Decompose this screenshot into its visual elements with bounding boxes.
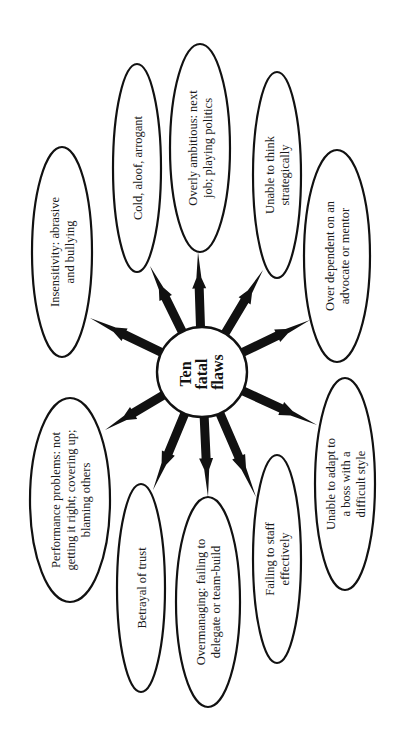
arrow-to-failing-to-staff xyxy=(213,406,256,497)
node-label: Failing to staffeffectively xyxy=(263,521,292,595)
node-label-line: Cold, aloof, arrogant xyxy=(131,115,145,220)
node-cold: Cold, aloof, arrogant xyxy=(113,64,161,272)
node-label-line: job; playing politics xyxy=(201,98,215,199)
node-label-line: Betrayal of trust xyxy=(135,547,149,629)
node-insensitivity: Insensitivity: abrasiveand bullying xyxy=(32,147,92,357)
node-ellipse xyxy=(176,497,240,707)
node-ellipse xyxy=(32,147,92,357)
node-label: Over dependent on anadvocate or mentor xyxy=(323,200,352,311)
node-label: Overly ambitious: nextjob; playing polit… xyxy=(186,90,215,206)
node-label-line: blaming others xyxy=(79,463,93,538)
node-label-line: Failing to staff xyxy=(263,521,277,595)
center-label: Ten fatal flaws xyxy=(177,354,226,390)
arrow-to-over-dependent xyxy=(235,320,310,359)
node-over-dependent: Over dependent on anadvocate or mentor xyxy=(304,150,370,362)
node-label: Unable to adapt toa boss with adifficult… xyxy=(324,438,368,530)
center-label-line-3: flaws xyxy=(209,354,226,390)
node-label-line: Performance problems: not xyxy=(49,431,63,568)
node-label-line: advocate or mentor xyxy=(338,207,352,304)
node-label-line: a boss with a xyxy=(339,451,353,516)
node-overmanaging: Overmanaging: failing todelegate or team… xyxy=(176,497,240,707)
arrow-to-unable-to-think xyxy=(218,270,263,341)
fatal-flaws-diagram: Insensitivity: abrasiveand bullyingCold,… xyxy=(0,0,403,755)
arrow-to-unable-to-adapt xyxy=(236,384,318,425)
node-label-line: Overmanaging: failing to xyxy=(194,539,208,665)
arrow-to-cold xyxy=(150,266,189,339)
node-label-line: effectively xyxy=(278,532,292,586)
node-label: Cold, aloof, arrogant xyxy=(131,115,145,220)
center-label-line-2: fatal xyxy=(193,358,210,390)
node-ellipse xyxy=(253,455,301,663)
node-betrayal-of-trust: Betrayal of trust xyxy=(117,484,165,692)
node-label-line: difficult style xyxy=(354,450,368,517)
arrow-to-overly-ambitious xyxy=(192,252,206,333)
node-label-line: Unable to think xyxy=(263,135,277,214)
arrow-to-overmanaging xyxy=(199,411,213,497)
center-hub: Ten fatal flaws xyxy=(157,327,247,417)
node-label: Unable to thinkstrategically xyxy=(263,135,292,214)
node-label: Betrayal of trust xyxy=(135,547,149,629)
node-performance-problems: Performance problems: notgetting it righ… xyxy=(30,398,110,602)
arrow-to-performance-problems xyxy=(105,388,171,430)
node-label-line: Insensitivity: abrasive xyxy=(48,197,62,307)
node-overly-ambitious: Overly ambitious: nextjob; playing polit… xyxy=(170,44,230,252)
arrow-to-betrayal-of-trust xyxy=(153,406,191,490)
node-unable-to-adapt: Unable to adapt toa boss with adifficult… xyxy=(315,378,375,590)
node-label: Overmanaging: failing todelegate or team… xyxy=(194,539,223,665)
node-label-line: Unable to adapt to xyxy=(324,438,338,530)
node-label-line: Over dependent on an xyxy=(323,200,337,311)
arrow-to-insensitivity xyxy=(90,318,169,359)
node-ellipse xyxy=(253,72,301,278)
node-label-line: delegate or team-build xyxy=(209,545,223,658)
node-ellipse xyxy=(304,150,370,362)
node-label-line: and bullying xyxy=(63,220,77,284)
node-failing-to-staff: Failing to staffeffectively xyxy=(253,455,301,663)
node-label-line: getting it right; covering up; xyxy=(64,430,78,571)
node-unable-to-think: Unable to thinkstrategically xyxy=(253,72,301,278)
node-ellipse xyxy=(170,44,230,252)
node-label-line: Overly ambitious: next xyxy=(186,90,200,206)
node-label-line: strategically xyxy=(278,144,292,206)
center-label-line-1: Ten xyxy=(177,361,194,386)
